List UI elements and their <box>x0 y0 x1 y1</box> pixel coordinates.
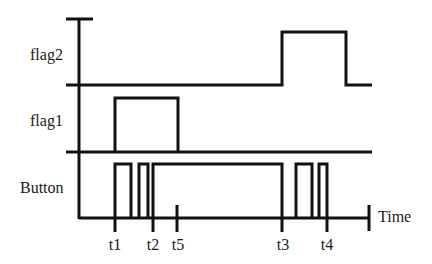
timing-diagram: flag2 flag1 Button Time t1 t2 t5 t3 t4 <box>0 0 432 264</box>
flag1-pulse <box>115 98 178 152</box>
t2-label: t2 <box>147 236 159 253</box>
flag2-waveform <box>66 32 372 85</box>
flag2-signal <box>66 32 372 85</box>
flag1-label: flag1 <box>30 112 63 130</box>
flag1-signal <box>66 98 372 152</box>
time-axis-label: Time <box>378 208 411 225</box>
t1-label: t1 <box>109 236 121 253</box>
button-label: Button <box>20 179 64 196</box>
t3-label: t3 <box>277 236 289 253</box>
button-pulse-3 <box>153 164 282 218</box>
t5-label: t5 <box>172 236 184 253</box>
button-pulse-4 <box>296 164 312 218</box>
button-pulse-2 <box>139 164 148 218</box>
button-pulse-5 <box>319 164 327 218</box>
t4-label: t4 <box>321 236 333 253</box>
flag2-label: flag2 <box>30 46 63 64</box>
button-pulse-1 <box>115 164 131 218</box>
